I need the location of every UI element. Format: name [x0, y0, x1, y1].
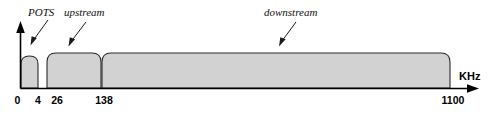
y-axis-arrowhead	[16, 21, 25, 33]
band-upstream	[47, 53, 101, 88]
axis-unit-khz: KHz	[459, 70, 481, 82]
band-pots	[21, 56, 38, 88]
label-downstream: downstream	[264, 6, 317, 18]
band-downstream	[102, 53, 450, 88]
tick-label-4: 4	[35, 94, 41, 106]
pots-leader-line	[34, 20, 49, 40]
downstream-leader-arrowhead	[279, 37, 286, 46]
upstream-leader-arrowhead	[69, 37, 76, 46]
spectrum-diagram: POTS upstream downstream 0 4 26 138 1100…	[0, 0, 491, 122]
label-upstream: upstream	[64, 6, 105, 18]
adsl-spectrum-figure: POTS upstream downstream 0 4 26 138 1100…	[0, 0, 491, 122]
tick-label-0: 0	[15, 94, 21, 106]
tick-label-1100: 1100	[442, 94, 465, 106]
upstream-leader-line	[72, 22, 87, 41]
downstream-leader-line	[282, 22, 296, 41]
tick-label-138: 138	[95, 94, 113, 106]
tick-label-26: 26	[51, 94, 63, 106]
label-pots: POTS	[27, 6, 55, 18]
x-axis-arrowhead	[467, 84, 479, 93]
pots-leader-arrowhead	[31, 36, 37, 45]
